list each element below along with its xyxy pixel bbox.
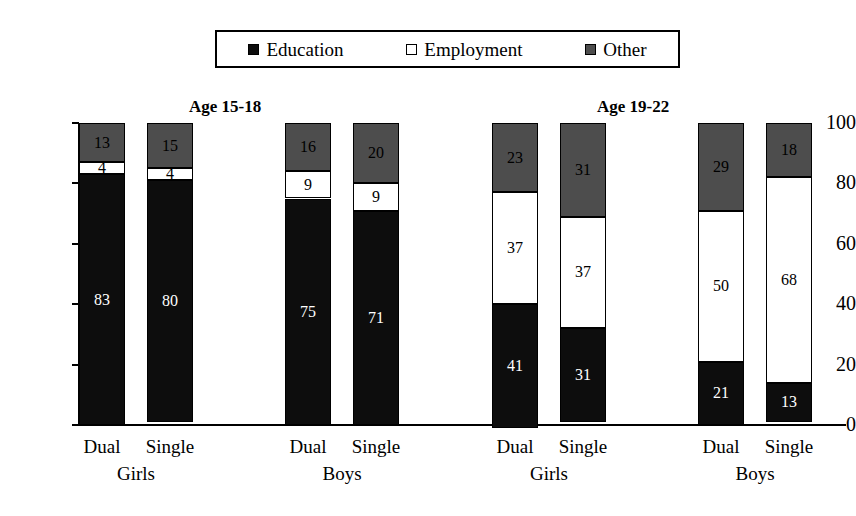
bar-value-label: 18 — [781, 142, 797, 158]
bar-segment-education[interactable]: 13 — [766, 383, 812, 422]
panel-title-age-15-18: Age 15-18 — [189, 97, 261, 117]
legend-label: Other — [603, 40, 646, 59]
stacked-bar-chart: EducationEmploymentOther Age 15-18 Age 1… — [0, 0, 856, 516]
bar-segment-other[interactable]: 29 — [698, 123, 744, 211]
bar-segment-other[interactable]: 31 — [560, 123, 606, 217]
bar-segment-education[interactable]: 80 — [147, 180, 193, 422]
open-white-square-icon — [406, 44, 417, 55]
bar-segment-education[interactable]: 75 — [285, 199, 331, 426]
bar-value-label: 21 — [713, 385, 729, 401]
bars-layer: 1348315480169752097123374131373129502118… — [0, 123, 856, 425]
x-axis-group-label-girls: Girls — [479, 464, 619, 483]
x-axis-label-single: Single — [336, 437, 416, 456]
bar-stack[interactable]: 16975 — [285, 123, 331, 425]
bar-value-label: 15 — [162, 138, 178, 154]
bar-value-label: 75 — [300, 304, 316, 320]
bar-segment-education[interactable]: 71 — [353, 211, 399, 425]
bar-segment-other[interactable]: 20 — [353, 123, 399, 183]
bar-value-label: 71 — [368, 310, 384, 326]
legend-entry-other[interactable]: Other — [585, 40, 646, 59]
legend-entry-education[interactable]: Education — [248, 40, 343, 59]
bar-stack[interactable]: 233741 — [492, 123, 538, 425]
bar-value-label: 23 — [507, 150, 523, 166]
bar-segment-employment[interactable]: 4 — [147, 168, 193, 180]
bar-segment-employment[interactable]: 37 — [492, 192, 538, 304]
x-axis-label-single: Single — [749, 437, 829, 456]
bar-segment-other[interactable]: 18 — [766, 123, 812, 177]
bar-value-label: 31 — [575, 162, 591, 178]
bar-segment-employment[interactable]: 50 — [698, 211, 744, 362]
bar-stack[interactable]: 313731 — [560, 123, 606, 425]
legend-label: Education — [266, 40, 343, 59]
bar-value-label: 13 — [94, 135, 110, 151]
bar-segment-employment[interactable]: 37 — [560, 217, 606, 329]
bar-segment-other[interactable]: 15 — [147, 123, 193, 168]
bar-value-label: 37 — [575, 264, 591, 280]
bar-segment-education[interactable]: 31 — [560, 328, 606, 422]
bar-stack[interactable]: 15480 — [147, 123, 193, 425]
bar-value-label: 50 — [713, 278, 729, 294]
x-axis-group-label-boys: Boys — [685, 464, 825, 483]
filled-black-square-icon — [248, 44, 259, 55]
bar-value-label: 16 — [300, 139, 316, 155]
bar-stack[interactable]: 20971 — [353, 123, 399, 425]
bar-value-label: 13 — [781, 394, 797, 410]
bar-segment-employment[interactable]: 9 — [353, 183, 399, 210]
chart-legend: EducationEmploymentOther — [215, 30, 680, 68]
bar-segment-other[interactable]: 23 — [492, 123, 538, 192]
bar-value-label: 29 — [713, 159, 729, 175]
bar-value-label: 37 — [507, 240, 523, 256]
bar-value-label: 83 — [94, 292, 110, 308]
x-axis-label-single: Single — [130, 437, 210, 456]
bar-segment-education[interactable]: 41 — [492, 304, 538, 428]
bar-segment-employment[interactable]: 4 — [79, 162, 125, 174]
x-axis-group-label-girls: Girls — [66, 464, 206, 483]
bar-segment-education[interactable]: 83 — [79, 174, 125, 425]
bar-segment-employment[interactable]: 9 — [285, 171, 331, 198]
x-axis-group-label-boys: Boys — [272, 464, 412, 483]
bar-value-label: 31 — [575, 367, 591, 383]
panel-title-age-19-22: Age 19-22 — [597, 97, 669, 117]
bar-value-label: 20 — [368, 145, 384, 161]
x-axis-label-single: Single — [543, 437, 623, 456]
bar-segment-other[interactable]: 16 — [285, 123, 331, 171]
bar-segment-employment[interactable]: 68 — [766, 177, 812, 382]
bar-segment-other[interactable]: 13 — [79, 123, 125, 162]
bar-stack[interactable]: 13483 — [79, 123, 125, 425]
bar-value-label: 9 — [372, 189, 380, 205]
filled-gray-square-icon — [585, 44, 596, 55]
bar-value-label: 68 — [781, 272, 797, 288]
bar-value-label: 9 — [304, 177, 312, 193]
bar-value-label: 80 — [162, 293, 178, 309]
bar-value-label: 41 — [507, 358, 523, 374]
bar-stack[interactable]: 186813 — [766, 123, 812, 425]
bar-segment-education[interactable]: 21 — [698, 362, 744, 425]
legend-label: Employment — [424, 40, 522, 59]
bar-stack[interactable]: 295021 — [698, 123, 744, 425]
legend-entry-employment[interactable]: Employment — [406, 40, 522, 59]
